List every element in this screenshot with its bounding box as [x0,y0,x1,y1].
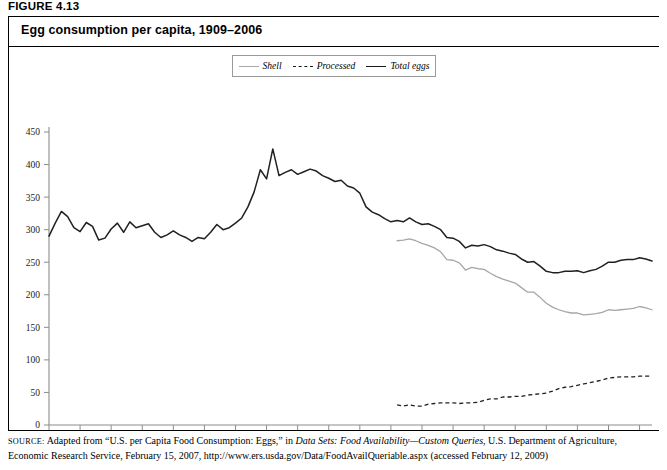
y-axis-tick-label: 200 [26,290,41,300]
legend-item-processed: Processed [293,61,356,71]
legend-swatch-shell [239,66,259,67]
chart-title: Egg consumption per capita, 1909–2006 [21,23,262,37]
source-italic-title: Data Sets: Food Availability—Custom Quer… [296,435,484,446]
line-chart: 0501001502002503003504004501909191419191… [9,47,660,431]
legend-item-shell: Shell [239,61,282,71]
legend-item-total-eggs: Total eggs [366,61,429,71]
legend-label-total-eggs: Total eggs [390,61,429,71]
figure-frame: Egg consumption per capita, 1909–2006 05… [8,16,659,431]
y-axis-tick-label: 0 [35,420,40,430]
y-axis-tick-label: 250 [26,258,41,268]
y-axis-tick-label: 50 [31,388,41,398]
chart-legend: Shell Processed Total eggs [232,55,436,77]
series-line-shell [397,239,652,315]
legend-label-processed: Processed [317,61,356,71]
figure-title-bar: Egg consumption per capita, 1909–2006 [9,17,659,47]
source-line-2: Economic Research Service, February 15, … [8,450,548,461]
plot-area: 0501001502002503003504004501909191419191… [9,47,659,431]
series-line-processed [397,376,652,406]
source-text-b: , U.S. Department of Agriculture, [483,435,617,446]
source-note: SOURCE: Adapted from “U.S. per Capita Fo… [8,434,659,462]
series-line-total-eggs [49,149,652,273]
legend-label-shell: Shell [263,61,282,71]
y-axis-tick-label: 450 [26,127,41,137]
figure-number-label: FIGURE 4.13 [8,0,79,12]
figure-page: FIGURE 4.13 Egg consumption per capita, … [0,0,667,470]
legend-swatch-total-eggs [366,66,386,67]
y-axis-tick-label: 100 [26,355,41,365]
y-axis-tick-label: 350 [26,193,41,203]
y-axis-tick-label: 300 [26,225,41,235]
source-text-a: Adapted from “U.S. per Capita Food Consu… [45,435,296,446]
y-axis-tick-label: 150 [26,323,41,333]
y-axis-tick-label: 400 [26,160,41,170]
source-prefix: SOURCE: [8,437,45,446]
legend-swatch-processed [293,66,313,67]
